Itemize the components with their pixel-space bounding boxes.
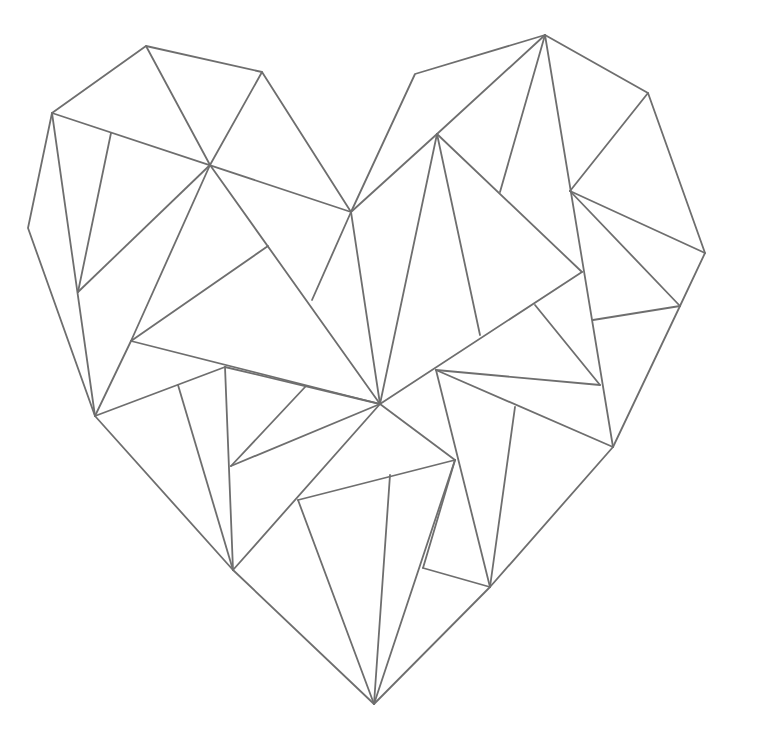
heart-facet-lines [52,35,705,704]
facet-line [380,134,437,404]
facet-line [437,134,480,335]
facet-line [374,460,455,704]
facet-line [436,370,600,385]
facet-line [231,386,306,466]
facet-line [233,404,380,570]
facet-line [78,133,111,292]
facet-line [52,113,95,416]
facet-line [490,407,515,587]
facet-line [436,370,613,447]
facet-line [351,212,380,404]
facet-line [298,460,455,500]
facet-line [437,134,582,272]
facet-line [231,404,380,466]
heart-outline [28,35,705,704]
facet-line [570,93,648,191]
facet-line [535,305,600,385]
facet-line [78,165,210,292]
facet-line [312,212,351,300]
facet-line [380,272,582,404]
geometric-heart-artwork [0,0,762,741]
facet-line [593,306,680,320]
facet-line [436,370,490,587]
facet-line [423,460,455,568]
facet-line [374,475,390,704]
facet-line [380,404,455,460]
facet-line [545,35,613,447]
facet-line [178,385,233,570]
facet-line [570,191,705,253]
facet-line [298,500,374,704]
facet-line [500,35,545,192]
facet-line [351,134,437,212]
facet-line [437,35,545,134]
facet-line [210,72,262,165]
facet-line [423,568,490,587]
facet-line [225,367,233,570]
